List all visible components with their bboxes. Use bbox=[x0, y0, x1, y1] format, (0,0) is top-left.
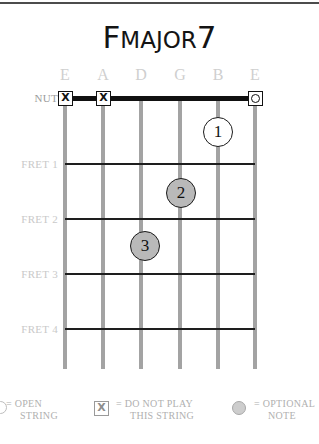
legend-optional-line2: NOTE bbox=[254, 410, 315, 422]
nut-bar bbox=[61, 96, 259, 101]
fret-line-1 bbox=[65, 163, 255, 165]
legend-mute-line1: = DO NOT PLAY bbox=[116, 398, 193, 409]
finger-dot-1[interactable]: 1 bbox=[203, 117, 233, 147]
mute-marker-string-1[interactable]: X bbox=[58, 91, 73, 106]
open-marker-string-6[interactable] bbox=[248, 91, 263, 106]
legend-item-open-string: = OPEN STRING bbox=[0, 398, 84, 432]
fret-line-2 bbox=[65, 218, 255, 220]
legend: = OPEN STRING X = DO NOT PLAY THIS STRIN… bbox=[0, 398, 319, 438]
finger-dot-2[interactable]: 2 bbox=[166, 178, 196, 208]
legend-open-line1: = OPEN bbox=[6, 398, 42, 409]
legend-item-optional-note: = OPTIONAL NOTE bbox=[232, 398, 319, 432]
row-label-fret-2: FRET 2 bbox=[8, 213, 58, 225]
fretboard-diagram: NUT FRET 1 FRET 2 FRET 3 FRET 4 X X 1 2 … bbox=[0, 0, 319, 444]
legend-optional-line1: = OPTIONAL bbox=[254, 398, 315, 409]
do-not-play-icon: X bbox=[94, 401, 109, 416]
legend-item-do-not-play: X = DO NOT PLAY THIS STRING bbox=[94, 398, 219, 432]
open-circle-icon bbox=[251, 94, 260, 103]
legend-label-optional-note: = OPTIONAL NOTE bbox=[254, 398, 315, 422]
fret-line-4 bbox=[65, 328, 255, 330]
row-label-fret-3: FRET 3 bbox=[8, 268, 58, 280]
fret-line-3 bbox=[65, 273, 255, 275]
legend-open-line2: STRING bbox=[6, 410, 58, 422]
row-label-nut: NUT bbox=[8, 92, 58, 104]
chord-chart-page: FMAJOR7 E A D G B E NUT FRET 1 FRET 2 FR… bbox=[0, 0, 319, 444]
legend-label-do-not-play: = DO NOT PLAY THIS STRING bbox=[116, 398, 194, 422]
optional-note-icon bbox=[232, 401, 246, 415]
legend-mute-line2: THIS STRING bbox=[116, 410, 194, 422]
mute-marker-string-2[interactable]: X bbox=[96, 91, 111, 106]
legend-label-open-string: = OPEN STRING bbox=[6, 398, 58, 422]
row-label-fret-4: FRET 4 bbox=[8, 323, 58, 335]
row-label-fret-1: FRET 1 bbox=[8, 158, 58, 170]
finger-dot-3[interactable]: 3 bbox=[130, 231, 160, 261]
